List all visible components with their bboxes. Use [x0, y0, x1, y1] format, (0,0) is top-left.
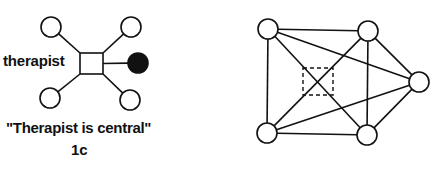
circle-node-top-right: [358, 21, 378, 41]
circle-node-bottom-right: [120, 90, 140, 110]
circle-node-bottom-left: [40, 88, 60, 108]
circle-node-top-right: [121, 17, 141, 37]
circle-node-top-left: [258, 19, 278, 39]
therapist-label: therapist: [3, 52, 65, 69]
edge-bottom-left-right: [276, 85, 409, 130]
connector-line: [58, 34, 80, 53]
circle-node-right: [409, 72, 429, 92]
connector-line: [58, 74, 80, 92]
edge-top-left-bottom-left: [267, 39, 268, 123]
connector-line: [103, 74, 123, 93]
connector-line: [103, 34, 124, 53]
edge-top-right-right: [375, 38, 412, 75]
edge-top-left-top-right: [278, 29, 358, 31]
figure-id: 1c: [71, 141, 88, 158]
complete-graph-diagram: [257, 19, 429, 145]
figure-caption: "Therapist is central": [6, 119, 151, 136]
edge-top-right-bottom-right: [367, 41, 368, 125]
circle-node-top-left: [41, 17, 61, 37]
edge-bottom-left-bottom-right: [277, 133, 357, 135]
diagram-canvas: [0, 0, 442, 174]
filled-circle-node: [128, 53, 148, 73]
circle-node-bottom-left: [257, 123, 277, 143]
circle-node-bottom-right: [357, 125, 377, 145]
edge-top-right-bottom-left: [274, 38, 361, 126]
therapist-square-node: [80, 53, 103, 74]
